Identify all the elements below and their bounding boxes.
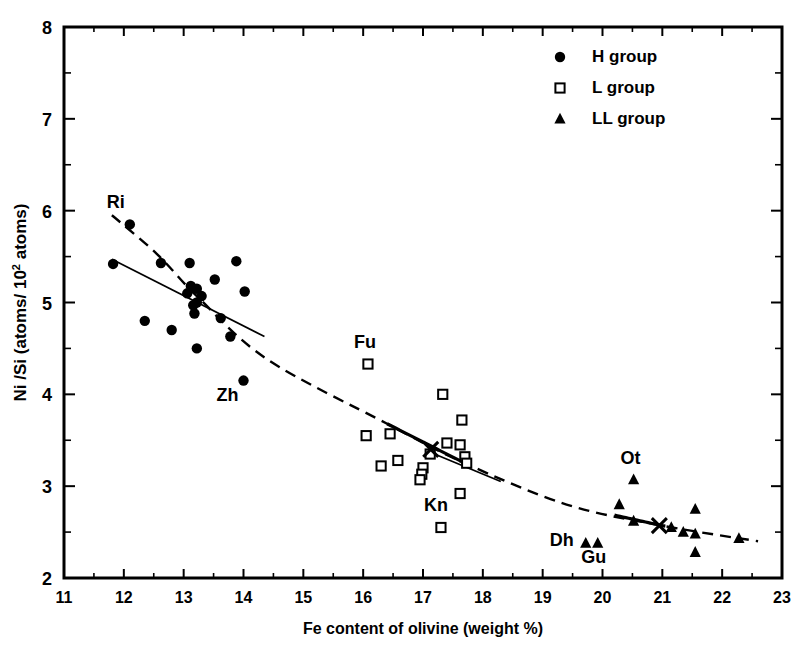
data-point-ll-group: [690, 546, 701, 557]
data-point-l-group: [438, 390, 447, 399]
overall-curve: [112, 215, 758, 541]
x-tick-label: 15: [294, 589, 312, 606]
point-label-ot: Ot: [621, 448, 641, 468]
data-point-l-group: [436, 523, 445, 532]
data-point-l-group: [363, 359, 372, 368]
data-point-h-group: [125, 219, 135, 229]
x-tick-label: 11: [56, 589, 73, 606]
data-point-l-group: [393, 456, 402, 465]
legend-marker-l-group: [555, 83, 564, 92]
legend-marker-h-group: [555, 52, 565, 62]
y-tick-label: 4: [42, 385, 52, 405]
x-tick-label: 22: [713, 589, 731, 606]
y-tick-label: 3: [42, 477, 52, 497]
data-point-l-group: [462, 459, 471, 468]
x-axis-label: Fe content of olivine (weight %): [303, 620, 543, 637]
point-label-dh: Dh: [550, 530, 574, 550]
x-tick-label: 18: [474, 589, 492, 606]
scatter-plot-figure: 111213141516171819202122232345678Fe cont…: [0, 0, 803, 646]
y-tick-label: 8: [42, 18, 52, 38]
x-tick-label: 13: [175, 589, 193, 606]
data-point-h-group: [156, 258, 166, 268]
x-tick-label: 17: [414, 589, 432, 606]
point-label-gu: Gu: [581, 547, 606, 567]
x-tick-label: 14: [235, 589, 253, 606]
x-tick-label: 16: [354, 589, 372, 606]
x-tick-label: 21: [653, 589, 671, 606]
data-point-h-group: [167, 325, 177, 335]
point-label-zh: Zh: [217, 385, 239, 405]
legend-label-ll-group: LL group: [592, 109, 665, 128]
data-point-h-group: [225, 331, 235, 341]
data-point-ll-group: [592, 537, 603, 548]
data-point-l-group: [385, 429, 394, 438]
data-point-h-group: [108, 259, 118, 269]
y-tick-label: 2: [42, 569, 52, 589]
point-label-kn: Kn: [424, 495, 448, 515]
data-point-ll-group: [690, 503, 701, 514]
data-point-l-group: [442, 438, 451, 447]
x-tick-label: 12: [115, 589, 133, 606]
data-point-l-group: [362, 431, 371, 440]
point-label-ri: Ri: [107, 192, 125, 212]
y-axis-label: Ni /Si (atoms/ 102 atoms): [10, 204, 30, 402]
data-point-l-group: [455, 489, 464, 498]
y-tick-label: 7: [42, 110, 52, 130]
y-tick-label: 6: [42, 202, 52, 222]
svg-text:Ni /Si (atoms/ 102 atoms): Ni /Si (atoms/ 102 atoms): [10, 204, 30, 402]
x-tick-label: 19: [534, 589, 552, 606]
data-point-ll-group: [580, 537, 591, 548]
data-point-l-group: [455, 440, 464, 449]
legend-label-l-group: L group: [592, 78, 655, 97]
data-point-h-group: [192, 343, 202, 353]
data-point-h-group: [184, 258, 194, 268]
legend-marker-ll-group: [554, 113, 565, 124]
point-label-fu: Fu: [354, 332, 376, 352]
data-point-h-group: [210, 274, 220, 284]
data-point-h-group: [182, 288, 192, 298]
data-point-h-group: [239, 286, 249, 296]
x-tick-label: 23: [773, 589, 791, 606]
data-point-l-group: [457, 415, 466, 424]
chart-canvas: 111213141516171819202122232345678Fe cont…: [0, 0, 803, 646]
data-point-ll-group: [628, 474, 639, 485]
data-point-l-group: [377, 461, 386, 470]
data-point-l-group: [415, 475, 424, 484]
legend-label-h-group: H group: [592, 47, 657, 66]
x-tick-label: 20: [594, 589, 612, 606]
data-point-ll-group: [614, 498, 625, 509]
data-point-h-group: [238, 375, 248, 385]
data-point-ll-group: [690, 528, 701, 539]
data-point-h-group: [216, 313, 226, 323]
data-point-h-group: [189, 308, 199, 318]
data-point-h-group: [140, 316, 150, 326]
data-point-h-group: [231, 256, 241, 266]
y-tick-label: 5: [42, 294, 52, 314]
